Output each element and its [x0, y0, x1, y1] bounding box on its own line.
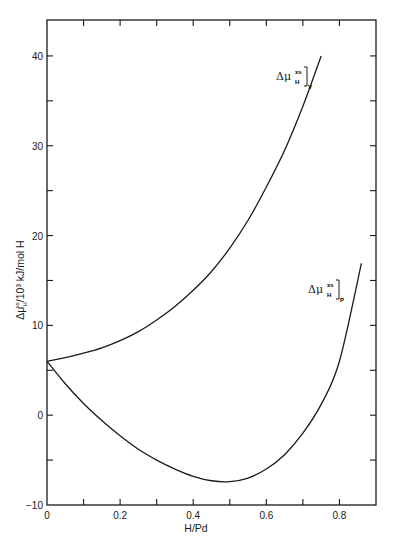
x-tick-label: 0.2	[113, 510, 127, 521]
y-tick-label: 30	[32, 141, 44, 152]
y-tick-label: 20	[32, 231, 44, 242]
x-tick-label: 0	[44, 510, 50, 521]
y-tick-label: −10	[26, 500, 43, 511]
svg-text:xs: xs	[295, 69, 302, 75]
y-tick-label: 40	[32, 51, 44, 62]
svg-text:H: H	[327, 292, 331, 298]
curve-constant-pressure	[47, 263, 361, 481]
y-tick-label: 10	[32, 320, 44, 331]
svg-text:ΔμHxs/10³ kJ/mol H: ΔμHxs/10³ kJ/mol H	[14, 240, 28, 319]
y-axis-label: ΔμHxs/10³ kJ/mol H	[14, 240, 28, 319]
curve-constant-volume	[47, 56, 321, 361]
y-tick-label: 0	[37, 410, 43, 421]
x-axis-label: H/Pd	[184, 522, 208, 534]
svg-text:Δμ: Δμ	[308, 283, 323, 296]
y-label-units: /10³ kJ/mol H	[14, 240, 26, 302]
curves	[47, 56, 361, 482]
svg-text:V: V	[308, 84, 312, 90]
x-tick-label: 0.4	[186, 510, 200, 521]
svg-text:Δμ: Δμ	[276, 70, 291, 83]
label-constant-volume: ΔμHxsV	[276, 67, 312, 90]
label-constant-pressure: ΔμHxsP	[308, 280, 344, 303]
plot-frame	[47, 20, 376, 505]
svg-text:H: H	[295, 79, 299, 85]
series-labels: ΔμHxsVΔμHxsP	[276, 67, 344, 303]
svg-text:xs: xs	[327, 282, 334, 288]
chart: 00.20.40.60.8−10010203040 H/Pd ΔμHxs/10³…	[0, 0, 395, 546]
axis-ticks	[47, 20, 376, 505]
tick-labels: 00.20.40.60.8−10010203040	[26, 51, 347, 521]
svg-text:P: P	[340, 297, 344, 303]
x-tick-label: 0.6	[259, 510, 273, 521]
x-tick-label: 0.8	[332, 510, 346, 521]
